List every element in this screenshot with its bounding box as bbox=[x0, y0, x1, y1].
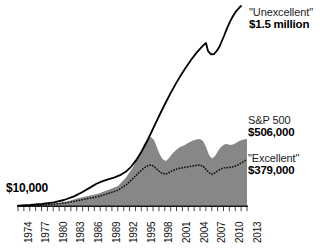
annotation-sp500: S&P 500 $506,000 bbox=[248, 114, 294, 139]
annotation-start-value-text: $10,000 bbox=[6, 182, 48, 195]
annotation-sp500-name: S&P 500 bbox=[248, 114, 294, 126]
x-axis-tick-label: 1980 bbox=[58, 222, 69, 243]
series-area-sp500 bbox=[18, 137, 247, 206]
x-axis-tick-label: 1998 bbox=[163, 222, 174, 243]
annotation-excellent-value: $379,000 bbox=[248, 164, 299, 177]
annotation-unexcellent: "Unexcellent" $1.5 million bbox=[249, 6, 313, 31]
x-axis-tick-label: 1995 bbox=[146, 222, 157, 243]
x-axis-tick-label: 1986 bbox=[93, 222, 104, 243]
x-axis-tick-label: 2007 bbox=[216, 222, 227, 243]
annotation-sp500-value: $506,000 bbox=[248, 126, 294, 139]
x-axis-tick-label: 2004 bbox=[199, 222, 210, 243]
x-axis-tick-label: 1992 bbox=[128, 222, 139, 243]
x-axis-tick-marks bbox=[18, 206, 247, 211]
growth-of-10000-chart: "Unexcellent" $1.5 million S&P 500 $506,… bbox=[0, 0, 330, 248]
annotation-start-value: $10,000 bbox=[6, 182, 48, 195]
x-axis-tick-label: 2013 bbox=[252, 222, 263, 243]
x-axis-tick-label: 2010 bbox=[234, 222, 245, 243]
annotation-unexcellent-name: "Unexcellent" bbox=[249, 6, 313, 18]
x-axis-tick-label: 1977 bbox=[40, 222, 51, 243]
x-axis-tick-label: 1974 bbox=[23, 222, 34, 243]
annotation-unexcellent-value: $1.5 million bbox=[249, 18, 313, 31]
annotation-excellent: "Excellent" $379,000 bbox=[248, 152, 299, 177]
x-axis-tick-label: 1989 bbox=[111, 222, 122, 243]
x-axis-tick-label: 2001 bbox=[181, 222, 192, 243]
x-axis-tick-label: 1983 bbox=[75, 222, 86, 243]
annotation-excellent-name: "Excellent" bbox=[248, 152, 299, 164]
